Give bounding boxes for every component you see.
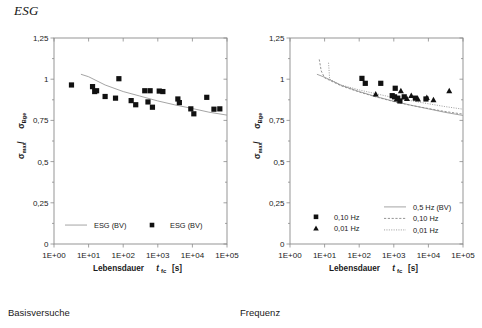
chart-right: 00,250,50,7511,251E+001E+011E+021E+031E+… xyxy=(240,24,480,282)
legend-marker-square xyxy=(150,223,155,228)
data-point-square xyxy=(113,96,118,101)
y-axis-title: σmax / σBge xyxy=(253,113,263,159)
data-point-square xyxy=(160,89,165,94)
y-tick-label: 1 xyxy=(44,75,49,84)
data-point-square xyxy=(94,88,99,93)
data-point-square xyxy=(69,82,74,87)
legend-marker-square xyxy=(314,215,319,220)
x-tick-label: 1E+00 xyxy=(278,251,302,260)
x-axis-title-main: Lebensdauer xyxy=(329,264,381,273)
page-title: ESG xyxy=(14,3,39,19)
x-axis-title-unit: [s] xyxy=(408,264,418,273)
chart-right-svg: 00,250,50,7511,251E+001E+011E+021E+031E+… xyxy=(240,24,480,282)
y-tick-label: 0,5 xyxy=(273,158,285,167)
legend-label: 0,10 Hz xyxy=(334,213,360,222)
x-tick-label: 1E+02 xyxy=(348,251,372,260)
x-tick-label: 1E+03 xyxy=(146,251,170,260)
legend-label: 0,01 Hz xyxy=(334,224,360,233)
data-point-square xyxy=(133,102,138,107)
data-point-square xyxy=(211,107,216,112)
x-axis-title: Lebensdauertfc[s] xyxy=(329,264,418,274)
x-axis-title-var-sub: fc xyxy=(161,268,167,274)
legend-label: ESG (BV) xyxy=(170,221,202,230)
data-point-triangle xyxy=(398,88,404,94)
data-point-square xyxy=(150,105,155,110)
chart-left: 00,250,50,7511,251E+001E+011E+021E+031E+… xyxy=(8,24,244,282)
x-tick-label: 1E+00 xyxy=(42,251,66,260)
y-tick-label: 1,25 xyxy=(269,34,285,43)
legend-label: 0,10 Hz xyxy=(413,214,439,223)
x-axis-title-var: t xyxy=(392,264,395,273)
y-tick-label: 1 xyxy=(280,75,285,84)
y-tick-label: 0,25 xyxy=(33,199,49,208)
caption-basisversuche: Basisversuche xyxy=(8,307,70,318)
x-axis-title-var: t xyxy=(156,264,159,273)
x-tick-label: 1E+04 xyxy=(181,251,205,260)
data-point-triangle xyxy=(408,93,414,99)
y-tick-label: 0 xyxy=(44,240,49,249)
data-point-triangle xyxy=(430,97,436,103)
x-tick-label: 1E+02 xyxy=(112,251,136,260)
data-point-square xyxy=(103,94,108,99)
x-axis-title-main: Lebensdauer xyxy=(93,264,145,273)
y-tick-label: 0,5 xyxy=(37,158,49,167)
x-tick-label: 1E+01 xyxy=(313,251,337,260)
y-axis-title: σmax / σBge xyxy=(17,113,27,159)
legend-label: 0,01 Hz xyxy=(413,226,439,235)
y-tick-label: 0 xyxy=(280,240,285,249)
caption-frequenz: Frequenz xyxy=(240,307,280,318)
data-point-square xyxy=(359,76,364,81)
chart-left-svg: 00,250,50,7511,251E+001E+011E+021E+031E+… xyxy=(8,24,244,282)
y-axis-title-part: Bge xyxy=(21,113,27,124)
data-point-triangle xyxy=(373,91,379,97)
x-axis-title-unit: [s] xyxy=(172,264,182,273)
data-point-square xyxy=(217,106,222,111)
x-axis-title: Lebensdauertfc[s] xyxy=(93,264,182,274)
y-axis-title-part: Bge xyxy=(257,113,263,124)
page-root: ESG 00,250,50,7511,251E+001E+011E+021E+0… xyxy=(0,0,482,328)
y-tick-label: 1,25 xyxy=(33,34,49,43)
data-point-square xyxy=(177,100,182,105)
x-tick-label: 1E+05 xyxy=(451,251,475,260)
data-point-square xyxy=(148,88,153,93)
x-tick-label: 1E+04 xyxy=(417,251,441,260)
y-tick-label: 0,25 xyxy=(269,199,285,208)
y-axis-title-part: / xyxy=(17,141,26,144)
plot-frame xyxy=(290,38,463,244)
y-tick-label: 0,75 xyxy=(33,116,49,125)
data-point-square xyxy=(191,111,196,116)
y-axis-title-part: / xyxy=(253,141,262,144)
legend-label: ESG (BV) xyxy=(94,221,126,230)
x-tick-label: 1E+05 xyxy=(215,251,239,260)
data-point-triangle xyxy=(446,88,452,94)
legend-marker-triangle xyxy=(313,225,319,230)
data-point-square xyxy=(204,95,209,100)
chart-panel-left: 00,250,50,7511,251E+001E+011E+021E+031E+… xyxy=(8,24,244,306)
y-tick-label: 0,75 xyxy=(269,116,285,125)
x-tick-label: 1E+01 xyxy=(77,251,101,260)
data-point-square xyxy=(116,76,121,81)
data-point-square xyxy=(129,98,134,103)
data-point-square xyxy=(378,81,383,86)
x-tick-label: 1E+03 xyxy=(382,251,406,260)
data-point-square xyxy=(145,99,150,104)
plot-frame xyxy=(54,38,227,244)
legend-label: 0,5 Hz (BV) xyxy=(413,203,451,212)
data-point-square xyxy=(363,81,368,86)
chart-panel-right: 00,250,50,7511,251E+001E+011E+021E+031E+… xyxy=(240,24,480,306)
fit-curve-dashed xyxy=(319,59,463,114)
data-point-square xyxy=(393,86,398,91)
data-point-square xyxy=(188,106,193,111)
data-point-square xyxy=(142,88,147,93)
x-axis-title-var-sub: fc xyxy=(397,268,403,274)
